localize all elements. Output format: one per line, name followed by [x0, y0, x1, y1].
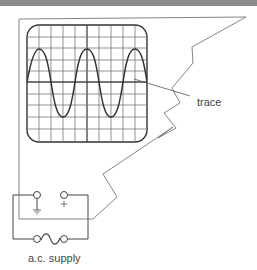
- ac-source-terminal-left: [34, 236, 41, 243]
- ac-source-terminal-right: [61, 236, 68, 243]
- trace-label: trace: [197, 96, 221, 108]
- earth-terminal: [34, 192, 41, 199]
- oscilloscope-screen: [27, 25, 147, 142]
- oscilloscope-diagram: [0, 0, 257, 270]
- positive-terminal: [61, 192, 68, 199]
- ac-source-icon: [41, 234, 60, 244]
- ac-supply-label: a.c. supply: [28, 252, 81, 264]
- supply-circuit: [13, 192, 88, 245]
